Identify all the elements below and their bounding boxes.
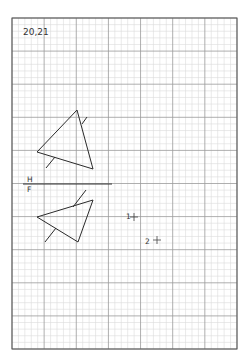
graph-paper-sheet: 20,21 H F 1 2 xyxy=(0,0,249,363)
fold-label-h: H xyxy=(27,175,33,184)
problem-number-label: 20,21 xyxy=(23,27,49,37)
fold-label-f: F xyxy=(27,185,31,194)
point-1-label: 1 xyxy=(126,212,131,221)
point-2-label: 2 xyxy=(145,237,150,246)
page-background xyxy=(0,0,249,363)
